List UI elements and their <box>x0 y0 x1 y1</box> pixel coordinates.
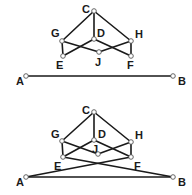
edge-d-e <box>63 39 94 56</box>
node-label-e: E <box>56 59 63 71</box>
node-c <box>92 9 97 14</box>
top-graph-diagram: CGDHEJFAB <box>16 3 186 87</box>
node-g <box>60 39 65 44</box>
graph-diagrams: CGDHEJFAB CGDHEJFAB <box>0 0 192 195</box>
node-e <box>61 155 66 160</box>
node-label-j: J <box>95 56 101 68</box>
node-g <box>60 139 65 144</box>
node-label-b: B <box>178 176 186 188</box>
node-label-d: D <box>98 128 106 140</box>
node-c <box>92 110 97 115</box>
bottom-graph-diagram: CGDHEJFAB <box>16 104 186 188</box>
node-label-f: F <box>134 160 141 172</box>
node-j <box>97 50 102 55</box>
node-label-d: D <box>97 27 105 39</box>
node-label-c: C <box>82 3 90 15</box>
node-a <box>24 74 29 79</box>
node-h <box>129 140 134 145</box>
node-b <box>171 175 176 180</box>
node-label-g: G <box>51 128 60 140</box>
node-e <box>61 54 66 59</box>
node-label-e: E <box>54 160 61 172</box>
edge-c-g <box>62 112 94 141</box>
node-label-h: H <box>135 28 143 40</box>
node-label-c: C <box>82 104 90 116</box>
node-label-g: G <box>51 27 60 39</box>
node-b <box>171 74 176 79</box>
node-d <box>92 37 97 42</box>
node-label-a: A <box>16 75 24 87</box>
node-label-f: F <box>127 59 134 71</box>
node-a <box>24 175 29 180</box>
node-h <box>129 39 134 44</box>
node-f <box>129 155 134 160</box>
node-label-h: H <box>135 129 143 141</box>
node-f <box>129 54 134 59</box>
node-label-j: J <box>92 143 98 155</box>
node-label-a: A <box>16 176 24 188</box>
node-label-b: B <box>178 75 186 87</box>
edge-c-g <box>62 11 94 41</box>
node-d <box>92 138 97 143</box>
